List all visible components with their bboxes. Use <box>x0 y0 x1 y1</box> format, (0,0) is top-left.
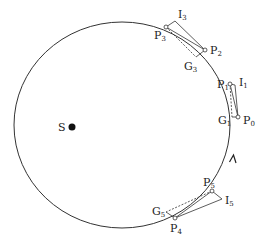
label-I5: I5 <box>225 194 234 208</box>
construction-3 <box>166 21 205 57</box>
direction-arrow-icon <box>230 155 237 163</box>
label-P0: P0 <box>243 114 255 128</box>
orbit-diagram: S I3 P3 P2 G3 P1 I1 G1 P0 P5 I5 G5 P4 <box>0 0 262 244</box>
label-P1: P1 <box>217 78 229 92</box>
label-P5: P5 <box>203 176 215 190</box>
construction-1 <box>230 84 238 117</box>
label-P3: P3 <box>154 29 166 43</box>
label-P2: P2 <box>210 44 222 58</box>
sun-dot <box>69 124 76 131</box>
label-P4: P4 <box>170 222 182 236</box>
label-G3: G3 <box>184 60 197 74</box>
label-I3: I3 <box>178 8 187 22</box>
sun-label: S <box>58 121 66 134</box>
point-P0 <box>236 115 240 119</box>
construction-5 <box>166 191 222 218</box>
point-P3 <box>164 25 168 29</box>
point-P4 <box>173 216 177 220</box>
label-G5: G5 <box>152 205 165 219</box>
orbit-ellipse <box>14 22 230 228</box>
point-P2 <box>203 48 207 52</box>
label-I1: I1 <box>239 76 248 90</box>
